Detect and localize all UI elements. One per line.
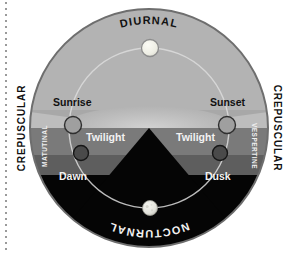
label-dusk: Dusk xyxy=(205,170,231,182)
sunrise-dot xyxy=(65,117,82,134)
moon-icon xyxy=(143,201,158,216)
svg-text:MATUTINAL: MATUTINAL xyxy=(41,125,48,167)
sun-icon xyxy=(142,40,159,57)
label-sunrise: Sunrise xyxy=(53,96,92,108)
label-dawn: Dawn xyxy=(59,170,87,182)
dusk-dot xyxy=(213,146,228,161)
marker-twilight-left: Twilight xyxy=(86,131,125,143)
svg-text:VESPERTINE: VESPERTINE xyxy=(251,123,258,169)
marker-twilight-right: Twilight xyxy=(176,131,215,143)
label-matutinal: MATUTINAL xyxy=(41,125,48,167)
label-sunset: Sunset xyxy=(210,96,246,108)
dawn-dot xyxy=(74,146,89,161)
label-twilight-left: Twilight xyxy=(86,131,125,143)
label-crepuscular-left: CREPUSCULAR xyxy=(16,85,27,172)
diel-cycle-svg: DIURNAL NOCTURNAL CREPUSCULAR CREPUSCULA… xyxy=(0,0,298,256)
label-crepuscular-right: CREPUSCULAR xyxy=(272,85,283,172)
sunset-dot xyxy=(219,117,236,134)
label-twilight-right: Twilight xyxy=(176,131,215,143)
svg-text:CREPUSCULAR: CREPUSCULAR xyxy=(272,85,283,172)
diel-cycle-figure: DIURNAL NOCTURNAL CREPUSCULAR CREPUSCULA… xyxy=(0,0,298,256)
svg-text:CREPUSCULAR: CREPUSCULAR xyxy=(16,85,27,172)
label-vespertine: VESPERTINE xyxy=(251,123,258,169)
